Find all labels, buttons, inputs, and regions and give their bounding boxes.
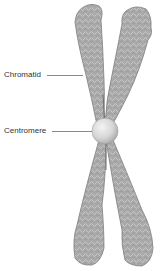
lower-right-chromatid-arm xyxy=(106,140,153,266)
centromere-sphere xyxy=(92,118,118,144)
centromere-leader-line xyxy=(52,131,92,132)
centromere-label: Centromere xyxy=(4,126,46,136)
chromosome-diagram: Chromatid Centromere xyxy=(0,0,167,271)
chromatid-label: Chromatid xyxy=(4,70,41,80)
lower-left-chromatid-arm xyxy=(74,140,106,265)
upper-right-chromatid-arm xyxy=(105,7,152,127)
upper-left-chromatid-arm xyxy=(75,4,104,125)
chromatid-leader-line xyxy=(47,75,83,76)
